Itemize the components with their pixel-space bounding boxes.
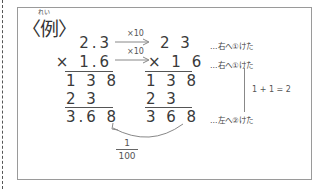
right-partial2: 2 3 <box>146 90 179 108</box>
example-title: 〈例〉 <box>22 14 76 41</box>
left-partial2: 2 3 <box>66 90 99 108</box>
dashed-cut-line <box>2 0 3 189</box>
right-partial1: 1 3 8 <box>146 72 199 90</box>
right-multiplicand: 2 3 <box>160 34 193 52</box>
annotation-multiplier: …右へ①けた <box>210 59 253 70</box>
fraction-denominator: 100 <box>116 151 138 161</box>
right-multiplier: × 1 6 <box>148 53 204 71</box>
fraction-one-hundredth: 1 100 <box>116 138 138 161</box>
sum-connector-line <box>244 68 245 112</box>
annotation-multiplicand: …右へ①けた <box>210 40 253 51</box>
digit-sum: 1 + 1 = 2 <box>252 85 291 94</box>
shift-arrows-icon <box>113 36 153 66</box>
fraction-numerator: 1 <box>116 138 138 148</box>
annotation-result: …左へ②けた <box>210 114 253 125</box>
left-multiplicand: 2.3 <box>79 34 112 52</box>
left-partial1: 1 3 8 <box>66 72 119 90</box>
left-multiplier: × 1.6 <box>56 53 112 71</box>
